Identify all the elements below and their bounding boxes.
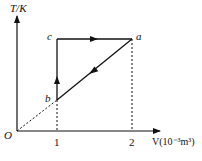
y-axis-label: T/K bbox=[10, 2, 27, 14]
point-label-c: c bbox=[47, 30, 52, 42]
origin-label: O bbox=[4, 129, 12, 141]
process-c-to-a bbox=[57, 36, 132, 42]
point-label-a: a bbox=[136, 30, 142, 42]
arrow-right-icon bbox=[90, 36, 98, 42]
process-b-to-c bbox=[54, 39, 60, 100]
x-tick-1: 1 bbox=[54, 136, 60, 148]
tv-cycle-diagram: T/K c a b O 1 2 V(10⁻³m³) bbox=[0, 0, 202, 161]
arrow-up-icon bbox=[54, 76, 60, 84]
process-a-to-b bbox=[57, 39, 132, 100]
x-axis-label: V(10⁻³m³) bbox=[152, 136, 195, 147]
point-label-b: b bbox=[45, 92, 51, 104]
x-tick-2: 2 bbox=[129, 136, 135, 148]
